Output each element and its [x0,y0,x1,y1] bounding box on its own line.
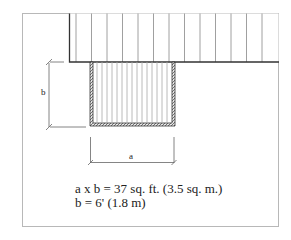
dimension-a-label: a [129,151,133,161]
hatched-box [90,62,175,126]
area-formula: a x b = 37 sq. ft. (3.5 sq. m.) [75,182,222,196]
b-dimension-value: b = 6' (1.8 m) [75,196,146,210]
deck-area [70,14,280,63]
dimension-b [46,59,86,130]
diagram-canvas: b a a x b = 37 sq. ft. (3.5 sq. m.) b = … [0,0,291,240]
dimension-b-label: b [41,87,46,97]
